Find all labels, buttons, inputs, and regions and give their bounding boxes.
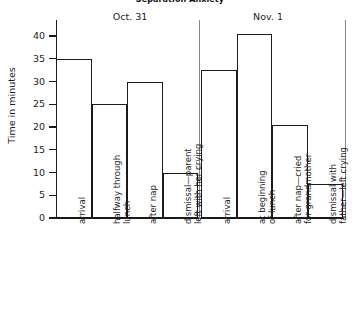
y-tick-label-30: 30	[20, 76, 45, 87]
y-tick-label-20: 20	[20, 121, 45, 132]
chart-container: Separation Anxiety Oct. 31 Nov. 1 Time i…	[0, 0, 360, 318]
y-tick-label-40: 40	[20, 30, 45, 41]
bar-0	[56, 59, 92, 218]
y-tick-20	[49, 126, 56, 127]
bar-4	[201, 70, 237, 218]
x-axis-label-1: halfway through lunch	[113, 155, 132, 224]
x-axis-label-6: after nap—cried for grandmother	[294, 154, 313, 224]
y-tick-25	[49, 104, 56, 105]
y-tick-30	[49, 81, 56, 82]
y-tick-label-0: 0	[20, 212, 45, 223]
y-tick-label-25: 25	[20, 98, 45, 109]
x-axis-label-5: at beginning of lunch	[258, 170, 277, 224]
x-axis-label-0: arrival	[78, 197, 88, 224]
y-tick-label-15: 15	[20, 144, 45, 155]
y-tick-10	[49, 172, 56, 173]
plot-area: 0510152025303540 arrivalhalfway through …	[0, 0, 360, 318]
y-tick-label-10: 10	[20, 167, 45, 178]
x-axis-label-4: arrival	[223, 197, 233, 224]
y-tick-label-35: 35	[20, 53, 45, 64]
y-tick-35	[49, 58, 56, 59]
x-axis-label-7: dismissal with father—left crying	[329, 147, 348, 224]
y-tick-0	[49, 217, 56, 218]
y-tick-15	[49, 149, 56, 150]
x-axis-label-3: dismissal—parent left with her crying	[184, 144, 203, 224]
y-tick-5	[49, 195, 56, 196]
y-tick-label-5: 5	[20, 189, 45, 200]
x-axis-label-2: after nap	[149, 185, 159, 224]
y-tick-40	[49, 35, 56, 36]
